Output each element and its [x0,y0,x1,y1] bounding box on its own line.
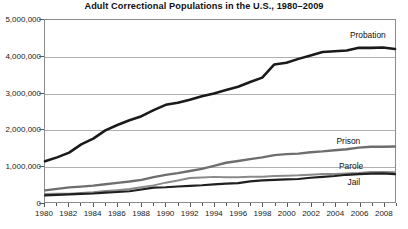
x-tick-minor [226,203,227,206]
x-axis-tick-marks [44,203,396,208]
x-tick-minor [372,203,373,206]
x-tick-label: 1994 [205,209,223,218]
x-tick-minor [275,203,276,206]
x-tick-major [165,203,166,207]
x-tick-label: 1988 [132,209,150,218]
x-tick-minor [202,203,203,206]
x-tick-label: 1986 [108,209,126,218]
x-tick-minor [129,203,130,206]
plot-area [44,19,396,203]
x-tick-label: 1990 [156,209,174,218]
x-tick-major [190,203,191,207]
x-tick-major [68,203,69,207]
x-tick-major [360,203,361,207]
chart-title: Adult Correctional Populations in the U.… [0,1,408,11]
x-tick-major [384,203,385,207]
x-tick-label: 2002 [302,209,320,218]
x-tick-label: 1984 [84,209,102,218]
x-tick-minor [299,203,300,206]
series-lines [45,20,395,202]
x-axis-labels: 1980198219841986198819901992199419961998… [44,209,396,225]
x-tick-major [238,203,239,207]
x-tick-major [44,203,45,207]
x-tick-major [141,203,142,207]
y-tick-label: 5,000,000 [5,15,41,24]
x-tick-major [335,203,336,207]
x-tick-label: 2008 [375,209,393,218]
x-tick-minor [153,203,154,206]
x-tick-label: 1996 [229,209,247,218]
x-tick-major [93,203,94,207]
x-tick-minor [56,203,57,206]
series-line-probation [45,48,395,162]
x-tick-label: 1998 [254,209,272,218]
y-tick-label: 2,000,000 [5,125,41,134]
x-tick-minor [396,203,397,206]
x-tick-label: 2006 [351,209,369,218]
x-tick-minor [323,203,324,206]
chart-figure: Adult Correctional Populations in the U.… [0,0,408,229]
y-tick-label: 4,000,000 [5,51,41,60]
x-tick-major [287,203,288,207]
y-tick-label: 3,000,000 [5,88,41,97]
x-tick-minor [105,203,106,206]
x-tick-major [311,203,312,207]
x-tick-label: 2004 [326,209,344,218]
x-tick-minor [347,203,348,206]
x-tick-label: 1992 [181,209,199,218]
y-axis-labels: 01,000,0002,000,0003,000,0004,000,0005,0… [0,19,41,203]
x-tick-minor [178,203,179,206]
x-tick-major [262,203,263,207]
x-tick-major [117,203,118,207]
x-tick-label: 1982 [59,209,77,218]
x-tick-minor [250,203,251,206]
x-tick-label: 1980 [35,209,53,218]
y-tick-label: 1,000,000 [5,162,41,171]
x-tick-minor [80,203,81,206]
x-tick-label: 2000 [278,209,296,218]
x-tick-major [214,203,215,207]
